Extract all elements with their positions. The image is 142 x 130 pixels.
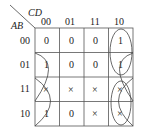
cell-01-01: 0 [69,59,74,70]
cell-11-11: × [92,84,98,95]
cell-10-01: 0 [69,108,74,119]
cell-00-01: 0 [69,35,74,46]
cell-10-10: × [117,108,123,119]
cell-00-11: 0 [93,35,98,46]
row-label-11: 11 [20,83,30,94]
row-label-10: 10 [20,108,30,119]
karnaugh-map: CD AB 00 01 11 10 00 01 11 10 0 0 0 1 1 … [0,0,142,130]
row-label-00: 00 [20,35,30,46]
row-label-01: 01 [20,59,30,70]
col-label-01: 01 [65,16,75,27]
cell-10-11: × [92,108,98,119]
col-label-10: 10 [114,16,124,27]
cell-00-10: 1 [118,35,123,46]
cell-11-01: × [68,84,74,95]
col-label-11: 11 [90,16,100,27]
cell-00-00: 0 [44,35,49,46]
cell-01-11: 0 [93,59,98,70]
row-variable-label: AB [10,20,23,31]
col-label-00: 00 [41,16,51,27]
